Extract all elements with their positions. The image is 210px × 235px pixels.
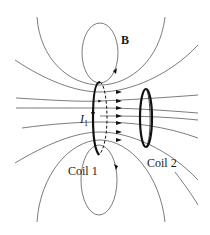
bottom-field-loop [81, 145, 118, 215]
current-subscript: 1 [84, 119, 88, 128]
coil1-label: Coil 1 [68, 164, 98, 179]
coil2-label: Coil 2 [147, 156, 177, 171]
mutual-inductance-diagram [0, 0, 210, 235]
current-label-i1: I1 [80, 112, 88, 128]
coil-1 [91, 82, 107, 155]
current-arrow-icon [91, 112, 95, 117]
top-field-loop [82, 23, 118, 83]
field-lines [15, 17, 198, 222]
field-label-b: B [121, 33, 129, 48]
coil-2 [140, 89, 152, 147]
